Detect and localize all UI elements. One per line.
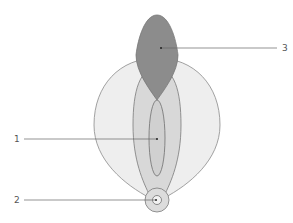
leader-dot-1 [156,138,158,140]
leader-dot-3 [160,47,162,49]
label-3: 3 [282,43,288,53]
label-1: 1 [14,134,20,144]
leader-dot-2 [155,199,157,201]
label-2: 2 [14,195,20,205]
anatomical-diagram: 1 2 3 [0,0,293,223]
